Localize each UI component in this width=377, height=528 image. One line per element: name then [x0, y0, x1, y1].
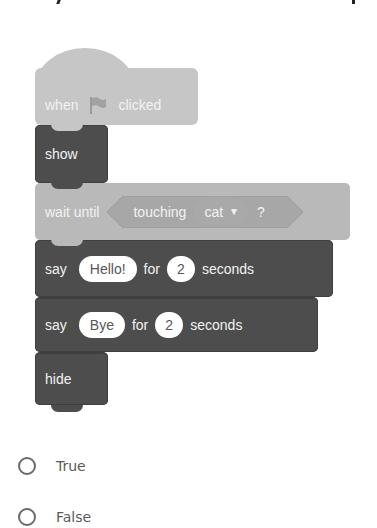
wait-until-block[interactable]: wait until touching cat ▼ ? [35, 183, 350, 240]
hide-label: hide [45, 371, 71, 387]
say-label: say [45, 261, 67, 277]
for-label: for [132, 317, 148, 333]
say-label: say [45, 317, 67, 333]
block-notch [51, 182, 83, 189]
show-label: show [45, 146, 78, 162]
block-notch [51, 124, 83, 131]
clipped-text-descender [352, 0, 355, 4]
show-block[interactable]: show [35, 125, 108, 183]
touching-label: touching [133, 204, 186, 220]
block-tab [51, 405, 83, 412]
radio-button[interactable] [18, 457, 36, 475]
block-notch [51, 239, 83, 246]
say-hello-block[interactable]: say Hello! for 2 seconds [35, 240, 333, 297]
touching-condition[interactable]: touching cat ▼ ? [107, 196, 290, 228]
say-bye-block[interactable]: say Bye for 2 seconds [35, 297, 318, 352]
seconds-input[interactable]: 2 [167, 256, 195, 282]
seconds-label: seconds [202, 261, 254, 277]
when-flag-clicked-block[interactable]: when clicked [35, 68, 198, 125]
seconds-label: seconds [190, 317, 242, 333]
chevron-down-icon: ▼ [229, 206, 239, 217]
for-label: for [144, 261, 160, 277]
sprite-dropdown[interactable]: cat ▼ [194, 199, 249, 225]
answer-option-false[interactable]: False [18, 508, 91, 526]
hide-block[interactable]: hide [35, 352, 108, 405]
message-input[interactable]: Hello! [79, 256, 137, 282]
answer-option-true[interactable]: True [18, 457, 86, 475]
option-label: True [56, 458, 86, 474]
question-mark: ? [257, 204, 265, 220]
when-label: when [45, 97, 78, 113]
message-input[interactable]: Bye [79, 312, 125, 338]
seconds-input[interactable]: 2 [155, 312, 183, 338]
green-flag-icon [88, 95, 108, 115]
radio-button[interactable] [18, 508, 36, 526]
option-label: False [56, 509, 91, 525]
clipped-text-descender [56, 0, 60, 4]
wait-until-label: wait until [45, 204, 99, 220]
clicked-label: clicked [118, 97, 161, 113]
dropdown-value: cat [204, 204, 223, 220]
